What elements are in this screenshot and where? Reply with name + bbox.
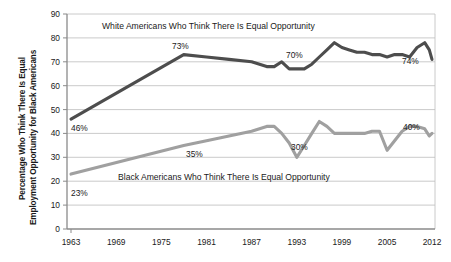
x-tick-label-1987: 1987 <box>242 237 261 247</box>
y-tick-label-30: 30 <box>51 152 61 162</box>
annotation-white-1963: 46% <box>71 123 88 133</box>
x-tick-label-1975: 1975 <box>152 237 171 247</box>
y-axis-tick-labels: 90 80 70 60 50 40 30 20 10 0 <box>51 9 61 234</box>
x-axis-tick-labels: 1963 1969 1975 1981 1987 1993 1999 2005 … <box>62 237 442 247</box>
annotation-white-1978: 73% <box>172 41 189 51</box>
x-tick-label-1963: 1963 <box>62 237 81 247</box>
y-tick-label-60: 60 <box>51 81 61 91</box>
line-chart: 90 80 70 60 50 40 30 20 10 0 1963 1969 1… <box>0 0 451 262</box>
series-caption-black-americans: Black Americans Who Think There Is Equal… <box>118 172 330 182</box>
annotation-black-1978: 35% <box>186 149 203 159</box>
y-tick-label-10: 10 <box>51 200 61 210</box>
y-tick-label-80: 80 <box>51 33 61 43</box>
y-tick-label-70: 70 <box>51 57 61 67</box>
y-axis-title-line1: Percentage Who Think There Is Equal <box>18 57 27 200</box>
y-tick-label-50: 50 <box>51 105 61 115</box>
annotation-white-2012: 74% <box>402 56 419 66</box>
y-tick-label-0: 0 <box>55 224 60 234</box>
annotation-black-1993: 30% <box>291 142 308 152</box>
annotation-black-1963: 23% <box>71 188 88 198</box>
annotation-black-2012: 40% <box>403 122 420 132</box>
x-tick-label-1999: 1999 <box>333 237 352 247</box>
y-tick-label-20: 20 <box>51 176 61 186</box>
x-tick-label-1981: 1981 <box>197 237 216 247</box>
x-tick-label-1993: 1993 <box>287 237 306 247</box>
y-tick-label-90: 90 <box>51 9 61 19</box>
x-tick-label-1969: 1969 <box>107 237 126 247</box>
series-caption-white-americans: White Americans Who Think There Is Equal… <box>102 21 315 31</box>
y-axis-title-line2: Employment Opportunity for Black America… <box>29 49 38 225</box>
plot-area-background <box>67 14 435 229</box>
x-tick-label-2005: 2005 <box>378 237 397 247</box>
x-tick-label-2012: 2012 <box>423 237 442 247</box>
annotation-white-1993: 70% <box>286 50 303 60</box>
chart-container: 90 80 70 60 50 40 30 20 10 0 1963 1969 1… <box>0 0 451 262</box>
y-tick-label-40: 40 <box>51 128 61 138</box>
y-axis-title: Percentage Who Think There Is Equal Empl… <box>18 49 38 225</box>
